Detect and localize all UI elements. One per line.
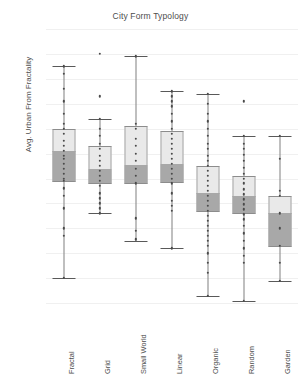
outlier-point: [99, 95, 101, 97]
box-plot-garden[interactable]: [262, 29, 298, 303]
box-plot-small-world[interactable]: [118, 29, 154, 303]
box-plot-random[interactable]: [226, 29, 262, 303]
box-plot-linear[interactable]: [154, 29, 190, 303]
outlier-point: [243, 100, 245, 102]
x-tick-label-organic: Organic: [211, 348, 220, 374]
box-plot-fractal[interactable]: [46, 29, 82, 303]
box-plot-organic[interactable]: [190, 29, 226, 303]
y-axis-title: Avg. Urban From Fractality: [24, 15, 33, 195]
plot-area: 0,800,750,700,650,600,550,500,450,400,35…: [46, 29, 298, 303]
x-tick-label-linear: Linear: [175, 353, 184, 374]
box-plot-figure: City Form Typology Avg. Urban From Fract…: [0, 0, 301, 384]
x-tick-label-small-world: Small World: [139, 334, 148, 374]
outlier-point: [99, 53, 101, 55]
chart-title: City Form Typology: [0, 11, 301, 21]
x-tick-label-fractal: Fractal: [67, 351, 76, 374]
x-tick-label-random: Random: [247, 346, 256, 374]
whisker-cap-lower: [125, 241, 148, 242]
box-plot-grid[interactable]: [82, 29, 118, 303]
x-tick-label-garden: Garden: [283, 349, 292, 374]
x-tick-label-grid: Grid: [103, 360, 112, 374]
box-lower-quartile: [269, 213, 292, 246]
gridline: [46, 303, 298, 304]
